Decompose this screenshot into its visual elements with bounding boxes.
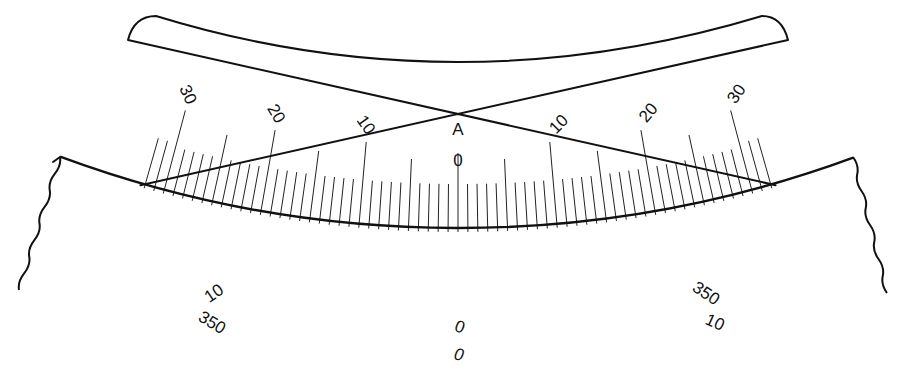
vernier-tick <box>428 184 429 232</box>
vernier-tick <box>389 182 392 230</box>
main-scale-outer-label: 10 <box>702 310 727 335</box>
vernier-tick <box>379 181 382 229</box>
vernier-tick <box>477 184 478 232</box>
vernier-tick <box>544 181 548 229</box>
vernier-tick <box>290 172 297 219</box>
vernier-tick <box>241 164 250 211</box>
vernier-tick <box>212 135 227 205</box>
vernier-tick <box>550 142 557 228</box>
vernier-tick <box>676 162 685 209</box>
vernier-tick <box>591 176 597 224</box>
main-scale-inner-label: 350 <box>689 277 723 309</box>
vernier-tick <box>398 183 400 231</box>
vernier-tick <box>251 166 260 213</box>
vernier-tick <box>638 169 646 216</box>
vernier-tick <box>487 184 488 232</box>
vernier-scale-diagram: A 0 001035035010102030102030 <box>0 0 903 372</box>
main-scale-outer-label: 0 <box>453 344 466 364</box>
vernier-tick <box>731 150 743 196</box>
vernier-tick <box>731 110 753 193</box>
vernier-tick <box>202 156 213 203</box>
main-scale-inner-label: 10 <box>201 280 227 306</box>
vernier-tick <box>319 176 325 224</box>
vernier-tick <box>270 169 278 216</box>
vernier-tick <box>339 178 344 226</box>
vernier-index-label: A <box>452 120 464 139</box>
vernier-tick <box>597 151 606 222</box>
right-break-line <box>853 157 887 293</box>
left-break-line <box>19 157 61 290</box>
vernier-right-label: 10 <box>353 112 379 138</box>
vernier-tick <box>173 150 185 196</box>
vernier-tick <box>438 184 439 232</box>
vernier-right-label: 20 <box>263 101 289 127</box>
vernier-tick <box>610 173 617 221</box>
vernier-tick <box>329 177 334 225</box>
vernier-tick <box>689 135 704 205</box>
vernier-tick <box>713 154 724 201</box>
vernier-tick <box>534 181 537 229</box>
main-scale-inner-label: 0 <box>452 316 467 337</box>
vernier-tick <box>369 181 373 229</box>
vernier-left-label: 30 <box>723 81 749 107</box>
vernier-tick <box>408 159 411 231</box>
left-corner <box>53 157 60 162</box>
vernier-tick <box>418 183 420 231</box>
vernier-left-label: 20 <box>635 99 662 126</box>
vernier-tick <box>581 177 586 225</box>
vernier-tick <box>349 179 354 227</box>
vernier-tick <box>563 179 568 227</box>
vernier-tick <box>703 156 714 203</box>
vernier-tick <box>496 183 498 231</box>
vernier-tick <box>163 110 185 193</box>
scale-labels: A 0 001035035010102030102030 <box>175 81 749 365</box>
vernier-tick <box>666 164 675 211</box>
vernier-tick <box>515 183 517 231</box>
vernier-tick <box>505 159 508 231</box>
vernier-right-label: 30 <box>175 82 200 107</box>
vernier-tick <box>525 182 528 230</box>
main-scale-outer-label: 350 <box>195 307 229 338</box>
vernier-zero-label: 0 <box>453 151 462 170</box>
vernier-tick <box>629 171 636 218</box>
vernier-tick <box>300 173 307 221</box>
vernier-tick <box>309 151 318 222</box>
vernier-tick <box>657 166 666 213</box>
vernier-tick <box>619 172 626 219</box>
vernier-tick <box>280 171 287 218</box>
vernier-tick <box>231 162 240 209</box>
vernier-tick <box>572 178 577 226</box>
vernier-tick <box>192 154 203 201</box>
vernier-tick <box>359 142 366 228</box>
diagram-canvas: A 0 001035035010102030102030 <box>0 0 903 372</box>
